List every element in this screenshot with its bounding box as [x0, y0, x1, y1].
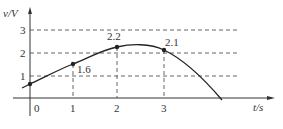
axes [13, 10, 272, 116]
velocity-time-chart: v/V t/s 3 2 1 0 1 2 3 1.6 2.2 2.1 [0, 0, 283, 129]
x-axis-arrow-icon [267, 96, 275, 100]
data-point-t0 [28, 82, 32, 86]
point-label-2-2: 2.2 [107, 30, 121, 42]
x-tick-1: 1 [70, 102, 76, 114]
y-axis-arrow-icon [28, 7, 32, 14]
y-axis-label: v/V [3, 7, 19, 19]
point-label-1-6: 1.6 [77, 63, 91, 75]
y-tick-3: 3 [20, 24, 26, 36]
y-tick-1: 1 [20, 70, 26, 82]
data-points [28, 45, 166, 86]
chart-svg: v/V t/s 3 2 1 0 1 2 3 1.6 2.2 2.1 [0, 0, 283, 129]
data-point-t1 [71, 62, 75, 66]
x-tick-3: 3 [161, 102, 167, 114]
x-tick-2: 2 [114, 102, 120, 114]
x-axis-label: t/s [253, 101, 263, 113]
x-tick-0: 0 [34, 102, 40, 114]
data-point-t2 [115, 45, 119, 49]
point-label-2-1: 2.1 [165, 36, 179, 48]
data-point-t3 [162, 48, 166, 52]
y-tick-2: 2 [20, 47, 26, 59]
